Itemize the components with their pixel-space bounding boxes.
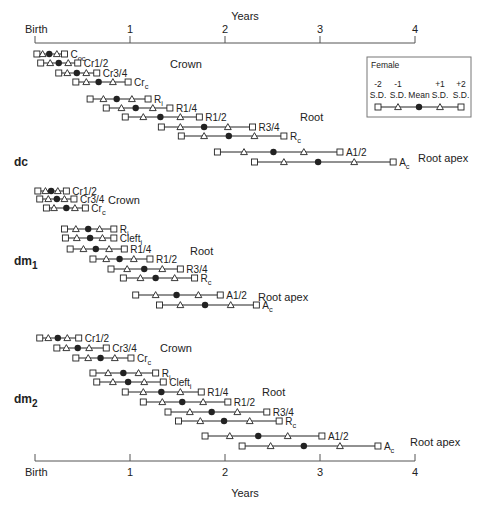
sd2-square-marker [111, 235, 117, 241]
stage-row: Crc [43, 203, 106, 217]
mean-dot-marker [56, 60, 62, 66]
stage-label: R1/4 [130, 244, 152, 255]
mean-dot-marker [120, 370, 126, 376]
stage-row: Rc [178, 131, 301, 145]
sd2-square-marker [62, 235, 68, 241]
sd2-square-marker [140, 399, 146, 405]
sd2-square-marker [128, 355, 134, 361]
sd2-square-marker [90, 256, 96, 262]
sd2-square-marker [111, 226, 117, 232]
mean-dot-marker [416, 104, 422, 110]
mean-dot-marker [255, 433, 261, 439]
sd2-square-marker [217, 292, 223, 298]
axis-tick-label: Birth [25, 466, 48, 478]
sd2-square-marker [120, 275, 126, 281]
sd2-square-marker [375, 443, 381, 449]
legend-sd-label: S.D. [390, 90, 407, 100]
mean-dot-marker [201, 124, 207, 130]
mean-dot-marker [54, 196, 60, 202]
sd2-square-marker [202, 433, 208, 439]
stage-label: R1/2 [156, 254, 178, 265]
tooth-label: dm1 [14, 254, 38, 271]
stage-row: R1/4 [103, 103, 197, 114]
sd2-square-marker [37, 196, 43, 202]
sd2-square-marker [108, 266, 114, 272]
sd2-square-marker [156, 302, 162, 308]
stage-label: Ri [154, 94, 163, 108]
sd2-square-marker [73, 79, 79, 85]
sd2-square-marker [145, 96, 151, 102]
mean-dot-marker [179, 399, 185, 405]
sd2-square-marker [225, 399, 231, 405]
stage-row: Ac [239, 441, 395, 455]
mean-dot-marker [63, 205, 69, 211]
sd2-square-marker [160, 379, 166, 385]
sd2-square-marker [75, 60, 81, 66]
sd2-square-marker [76, 335, 82, 341]
sd2-square-marker [73, 355, 79, 361]
tooth-group-dm1: dm1CrownRootRoot apexCr1/2Cr3/4CrcRiClef… [14, 186, 309, 314]
mean-dot-marker [93, 246, 99, 252]
sd2-square-marker [82, 205, 88, 211]
sd2-square-marker [121, 246, 127, 252]
stage-label: A1/2 [226, 290, 247, 301]
axis-title: Years [231, 487, 259, 499]
tooth-group-dm2: dm2CrownRootRoot apexCr1/2Cr3/4CrcRiClef… [14, 333, 461, 455]
stage-row: Clefti [94, 377, 192, 391]
stage-row: Ac [156, 300, 273, 314]
sd2-square-marker [94, 379, 100, 385]
stage-label: R1/4 [176, 103, 198, 114]
stage-label: R3/4 [259, 122, 281, 133]
mean-dot-marker [221, 418, 227, 424]
mean-dot-marker [95, 79, 101, 85]
sd2-square-marker [38, 60, 44, 66]
sd2-square-marker [87, 96, 93, 102]
mean-dot-marker [116, 256, 122, 262]
sd2-square-marker [90, 370, 96, 376]
phase-label: Root [300, 111, 323, 123]
sd2-square-marker [239, 443, 245, 449]
stage-label: Rc [201, 273, 212, 287]
axis-tick-label: 1 [127, 466, 133, 478]
stage-row: Rc [120, 273, 211, 287]
phase-label: Root apex [418, 152, 469, 164]
stage-label: Ac [399, 157, 410, 171]
stage-label: Ac [384, 441, 395, 455]
sd2-square-marker [122, 389, 128, 395]
sd2-square-marker [196, 114, 202, 120]
sd2-square-marker [178, 133, 184, 139]
stage-row: A1/2 [133, 290, 248, 301]
stage-label: R1/2 [205, 112, 227, 123]
tooth-label: dm2 [14, 392, 38, 409]
sd2-square-marker [158, 124, 164, 130]
sd2-square-marker [125, 79, 131, 85]
axis-title: Years [231, 10, 259, 22]
stage-row: R3/4 [158, 122, 280, 133]
mean-dot-marker [152, 275, 158, 281]
sd2-square-marker [214, 149, 220, 155]
sd2-square-marker [375, 104, 381, 110]
stage-row: R1/2 [122, 112, 227, 123]
sd2-square-marker [103, 105, 109, 111]
axis-tick-label: 2 [222, 23, 228, 35]
sd2-square-marker [390, 159, 396, 165]
stage-label: Cr3/4 [112, 343, 137, 354]
stage-label: A1/2 [328, 431, 349, 442]
chart-canvas: Birth1234YearsBirth1234Years Female-2S.D… [0, 0, 483, 513]
sd2-square-marker [177, 266, 183, 272]
mean-dot-marker [133, 105, 139, 111]
phase-label: Crown [170, 58, 202, 70]
stage-row: A1/2 [202, 431, 349, 442]
mean-dot-marker [301, 443, 307, 449]
phase-label: Root [190, 245, 213, 257]
stage-row: R1/2 [140, 397, 255, 408]
bottom-axis: Birth1234Years [25, 454, 418, 499]
sd2-square-marker [198, 389, 204, 395]
sd2-square-marker [61, 51, 67, 57]
mean-dot-marker [270, 149, 276, 155]
sd2-square-marker [251, 159, 257, 165]
stage-label: Crc [91, 203, 106, 217]
mean-dot-marker [87, 235, 93, 241]
legend: Female-2S.D.-1S.D.Mean+1S.D.+2S.D. [367, 57, 471, 117]
tooth-label: dc [14, 155, 28, 169]
